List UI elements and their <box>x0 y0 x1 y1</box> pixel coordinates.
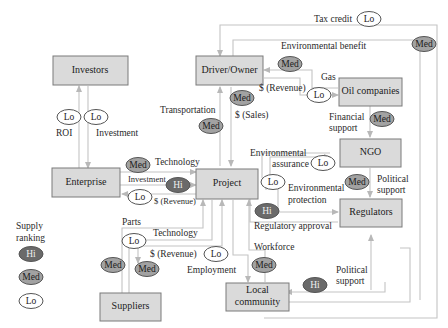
svg-text:Lo: Lo <box>211 249 222 259</box>
svg-text:support: support <box>336 276 365 286</box>
stakeholder-diagram: Investors Driver/Owner Oil companies NGO… <box>0 0 448 328</box>
svg-text:Lo: Lo <box>26 296 37 306</box>
badge-tax-credit: Lo <box>357 12 381 27</box>
badge-gas: Med <box>278 57 302 72</box>
badge-revenue-suppliers: Med <box>135 262 159 277</box>
badge-workforce: Med <box>252 258 276 273</box>
label-investment-enterprise: Investment <box>128 174 166 184</box>
svg-text:Lo: Lo <box>268 177 279 187</box>
label-environmental-assurance: Environmental <box>250 148 307 158</box>
label-tax-credit: Tax credit <box>314 14 352 24</box>
badge-regulatory-approval: Hi <box>255 204 279 219</box>
node-suppliers[interactable]: Suppliers <box>100 293 161 321</box>
label-revenue-driver: $ (Revenue) <box>259 83 306 94</box>
badge-technology-enterprise: Med <box>126 158 150 173</box>
svg-text:Med: Med <box>281 59 299 69</box>
label-parts: Parts <box>122 217 141 227</box>
svg-text:Driver/Owner: Driver/Owner <box>201 64 258 75</box>
label-employment: Employment <box>187 265 236 275</box>
label-revenue-suppliers: $ (Revenue) <box>150 249 197 260</box>
label-political-support-ngo: Political <box>377 174 409 184</box>
legend-title: Supply <box>16 221 43 231</box>
legend-hi: Hi <box>19 247 43 262</box>
svg-text:Enterprise: Enterprise <box>65 176 107 187</box>
label-regulatory-approval: Regulatory approval <box>254 221 332 231</box>
node-regulators[interactable]: Regulators <box>340 199 402 227</box>
svg-text:Med: Med <box>104 260 122 270</box>
svg-text:Lo: Lo <box>364 14 375 24</box>
label-workforce: Workforce <box>254 242 294 252</box>
label-technology-suppliers: Technology <box>153 228 198 238</box>
svg-text:Lo: Lo <box>64 112 75 122</box>
svg-text:Med: Med <box>373 114 391 124</box>
svg-text:Med: Med <box>348 177 366 187</box>
svg-text:Suppliers: Suppliers <box>112 300 150 311</box>
legend-lo: Lo <box>19 294 43 309</box>
label-transportation: Transportation <box>160 105 216 115</box>
legend-med: Med <box>19 270 43 285</box>
label-environmental-protection: Environmental <box>288 183 345 193</box>
svg-text:Med: Med <box>415 39 433 49</box>
svg-text:Med: Med <box>233 93 251 103</box>
svg-text:Project: Project <box>213 177 242 188</box>
badge-political-support-ngo: Med <box>345 175 369 190</box>
node-local-community[interactable]: Local community <box>226 283 289 311</box>
label-financial-support: Financial <box>329 112 365 122</box>
svg-text:Med: Med <box>202 121 220 131</box>
badge-roi: Lo <box>57 110 81 125</box>
svg-text:protection: protection <box>288 195 327 205</box>
svg-text:Regulators: Regulators <box>349 206 392 217</box>
badge-environmental-protection: Lo <box>261 175 285 190</box>
node-project[interactable]: Project <box>196 169 258 199</box>
label-sales: $ (Sales) <box>235 110 269 121</box>
legend: Supply ranking Hi Med Lo <box>16 221 45 309</box>
edge-community-to-regulators <box>286 248 410 302</box>
badge-political-support-community: Hi <box>303 278 327 293</box>
svg-text:Lo: Lo <box>91 112 102 122</box>
svg-text:support: support <box>329 123 358 133</box>
node-enterprise[interactable]: Enterprise <box>52 168 120 197</box>
svg-text:Hi: Hi <box>262 206 272 216</box>
node-investors[interactable]: Investors <box>53 56 128 85</box>
svg-text:Local: Local <box>246 284 269 295</box>
svg-text:support: support <box>377 185 406 195</box>
svg-text:Med: Med <box>138 264 156 274</box>
badge-investment-enterprise: Hi <box>166 178 190 193</box>
svg-text:Investors: Investors <box>72 64 109 75</box>
badge-transportation: Med <box>199 119 223 134</box>
badge-revenue-oil: Lo <box>307 88 331 103</box>
svg-text:Hi: Hi <box>26 249 36 259</box>
badge-revenue-enterprise: Lo <box>128 190 152 205</box>
badge-environmental-assurance: Lo <box>311 156 335 171</box>
svg-text:ranking: ranking <box>16 233 45 243</box>
svg-text:Med: Med <box>255 260 273 270</box>
label-technology-enterprise: Technology <box>155 157 200 167</box>
svg-text:assurance: assurance <box>272 159 309 169</box>
node-oil-companies[interactable]: Oil companies <box>339 78 402 106</box>
badge-environmental-benefit: Med <box>412 37 436 52</box>
badge-investment-investors: Lo <box>84 110 108 125</box>
badge-sales: Med <box>230 91 254 106</box>
badge-financial-support: Med <box>370 112 394 127</box>
svg-text:Lo: Lo <box>129 236 140 246</box>
label-political-support-community: Political <box>336 265 368 275</box>
badge-parts: Med <box>101 258 125 273</box>
svg-text:Med: Med <box>22 272 40 282</box>
svg-text:NGO: NGO <box>360 146 382 157</box>
svg-text:community: community <box>235 296 281 307</box>
node-driver-owner[interactable]: Driver/Owner <box>196 56 263 85</box>
label-investment: Investment <box>96 128 139 138</box>
svg-text:Oil companies: Oil companies <box>341 85 399 96</box>
label-environmental-benefit: Environmental benefit <box>281 41 367 51</box>
svg-text:Med: Med <box>129 160 147 170</box>
node-ngo[interactable]: NGO <box>340 139 401 167</box>
label-revenue-enterprise: $ (Revenue) <box>154 196 196 206</box>
badge-technology-suppliers: Lo <box>122 234 146 249</box>
label-gas: Gas <box>321 72 336 82</box>
svg-text:Lo: Lo <box>314 90 325 100</box>
svg-text:Lo: Lo <box>135 192 146 202</box>
svg-text:Lo: Lo <box>318 158 329 168</box>
badge-employment: Lo <box>204 247 228 262</box>
label-roi: ROI <box>56 128 72 138</box>
svg-text:Hi: Hi <box>310 280 320 290</box>
